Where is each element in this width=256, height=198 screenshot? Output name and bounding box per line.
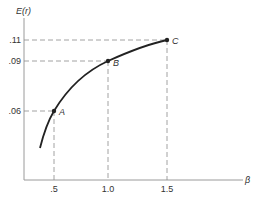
x-tick-05: .5 [50,184,58,194]
point-a-marker [52,109,56,113]
guide-lines [24,40,167,180]
chart: A B C .06 .09 .11 .5 1.0 1.5 E(r) β [0,0,256,198]
y-axis-label: E(r) [16,6,31,16]
point-b-label: B [113,58,119,68]
y-tick-11: .11 [9,35,21,45]
point-c-marker [165,38,169,42]
point-a-label: A [58,107,65,117]
point-c-label: C [172,36,179,46]
y-tick-06: .06 [8,106,21,116]
y-tick-09: .09 [8,56,21,66]
x-tick-10: 1.0 [102,184,115,194]
point-b-marker [106,59,110,63]
x-tick-15: 1.5 [161,184,174,194]
x-axis-label: β [244,175,250,185]
efficient-curve [40,40,167,148]
